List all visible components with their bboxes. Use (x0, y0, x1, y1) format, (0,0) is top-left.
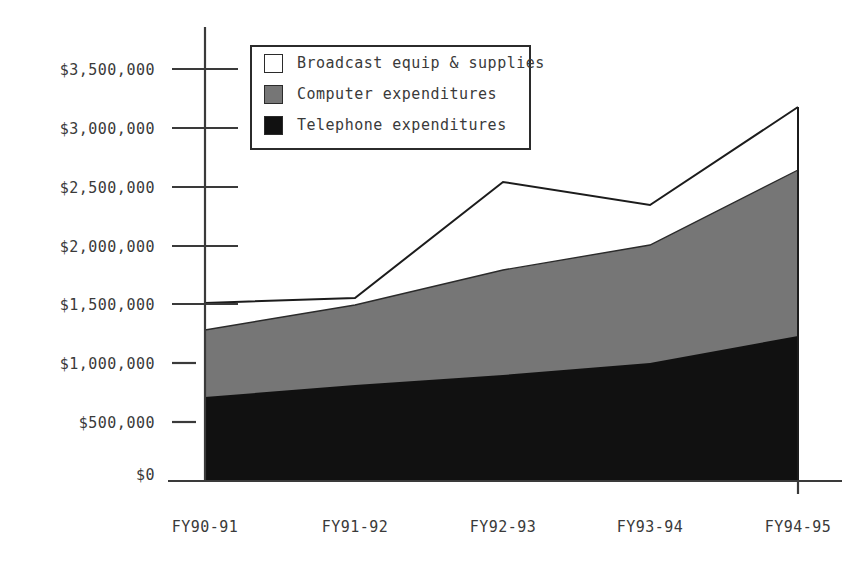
y-tick-label-1000000: $1,000,000 (0, 355, 155, 373)
legend-swatch-telephone (264, 116, 283, 135)
y-tick-label-3000000: $3,000,000 (0, 120, 155, 138)
legend-item-telephone: Telephone expenditures (252, 111, 529, 140)
legend-label-computer: Computer expenditures (297, 87, 497, 102)
y-tick-label-500000: $500,000 (0, 414, 155, 432)
legend-item-broadcast: Broadcast equip & supplies (252, 49, 529, 78)
legend-item-computer: Computer expenditures (252, 80, 529, 109)
legend-label-telephone: Telephone expenditures (297, 118, 507, 133)
y-tick-label-2000000: $2,000,000 (0, 238, 155, 256)
legend-label-broadcast: Broadcast equip & supplies (297, 56, 545, 71)
x-tick-label-fy93-94: FY93-94 (580, 518, 720, 536)
y-tick-label-1500000: $1,500,000 (0, 296, 155, 314)
legend-swatch-computer (264, 85, 283, 104)
chart-legend: Broadcast equip & supplies Computer expe… (250, 45, 531, 150)
x-tick-label-fy90-91: FY90-91 (135, 518, 275, 536)
x-tick-label-fy91-92: FY91-92 (285, 518, 425, 536)
y-tick-label-0: $0 (0, 466, 155, 484)
stacked-area-chart: $3,500,000 $3,000,000 $2,500,000 $2,000,… (0, 0, 858, 578)
x-tick-label-fy94-95: FY94-95 (728, 518, 858, 536)
y-tick-label-2500000: $2,500,000 (0, 179, 155, 197)
y-tick-label-3500000: $3,500,000 (0, 61, 155, 79)
legend-swatch-broadcast (264, 54, 283, 73)
x-tick-label-fy92-93: FY92-93 (433, 518, 573, 536)
